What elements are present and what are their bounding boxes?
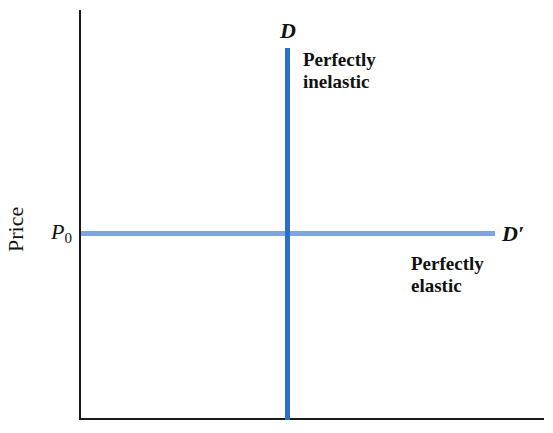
- y-tick-label-p0: P0: [51, 219, 72, 247]
- annotation-line: elastic: [411, 275, 484, 297]
- p0-symbol: P: [51, 219, 64, 244]
- y-axis-label: Price: [3, 207, 29, 252]
- p0-subscript: 0: [64, 230, 72, 246]
- demand-curve-perfectly-inelastic: [285, 48, 290, 420]
- annotation-line: inelastic: [303, 71, 376, 93]
- annotation-line: Perfectly: [303, 49, 376, 71]
- annotation-perfectly-elastic: Perfectly elastic: [411, 253, 484, 297]
- curve-label-d-prime: D′: [502, 221, 524, 247]
- annotation-perfectly-inelastic: Perfectly inelastic: [303, 49, 376, 93]
- annotation-line: Perfectly: [411, 253, 484, 275]
- y-axis: [79, 10, 81, 420]
- curve-label-d: D: [280, 18, 296, 44]
- x-axis: [79, 418, 544, 420]
